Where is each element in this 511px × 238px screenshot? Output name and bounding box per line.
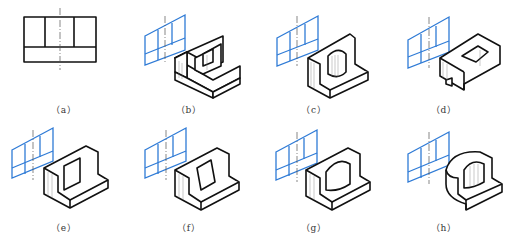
panel-label-e: （e） (0, 221, 128, 234)
panel-d: （d） (380, 0, 508, 119)
front-view-drawing (0, 0, 128, 119)
solid-f (175, 148, 239, 210)
panel-label-a: （a） (0, 103, 128, 116)
panel-label-g: （g） (250, 221, 378, 234)
panel-label-d: （d） (380, 103, 508, 116)
panel-a: （a） (0, 0, 128, 119)
panel-h: （h） (380, 118, 508, 237)
panel-label-c: （c） (250, 103, 378, 116)
isometric-drawing-b (125, 0, 253, 119)
isometric-drawing-g (250, 118, 378, 237)
solid-h (446, 152, 502, 210)
isometric-drawing-d (380, 0, 508, 119)
solid-c (308, 34, 368, 98)
panel-f: （f） (125, 118, 253, 237)
isometric-drawing-f (125, 118, 253, 237)
solid-g (306, 148, 370, 210)
panel-b: （b） (125, 0, 253, 119)
panel-e: （e） (0, 118, 128, 237)
panel-label-f: （f） (125, 221, 253, 234)
panel-label-h: （h） (380, 221, 508, 234)
panel-c: （c） (250, 0, 378, 119)
isometric-drawing-e (0, 118, 128, 237)
isometric-drawing-c (250, 0, 378, 119)
isometric-drawing-h (380, 118, 508, 237)
panel-label-b: （b） (125, 103, 253, 116)
panel-g: （g） (250, 118, 378, 237)
